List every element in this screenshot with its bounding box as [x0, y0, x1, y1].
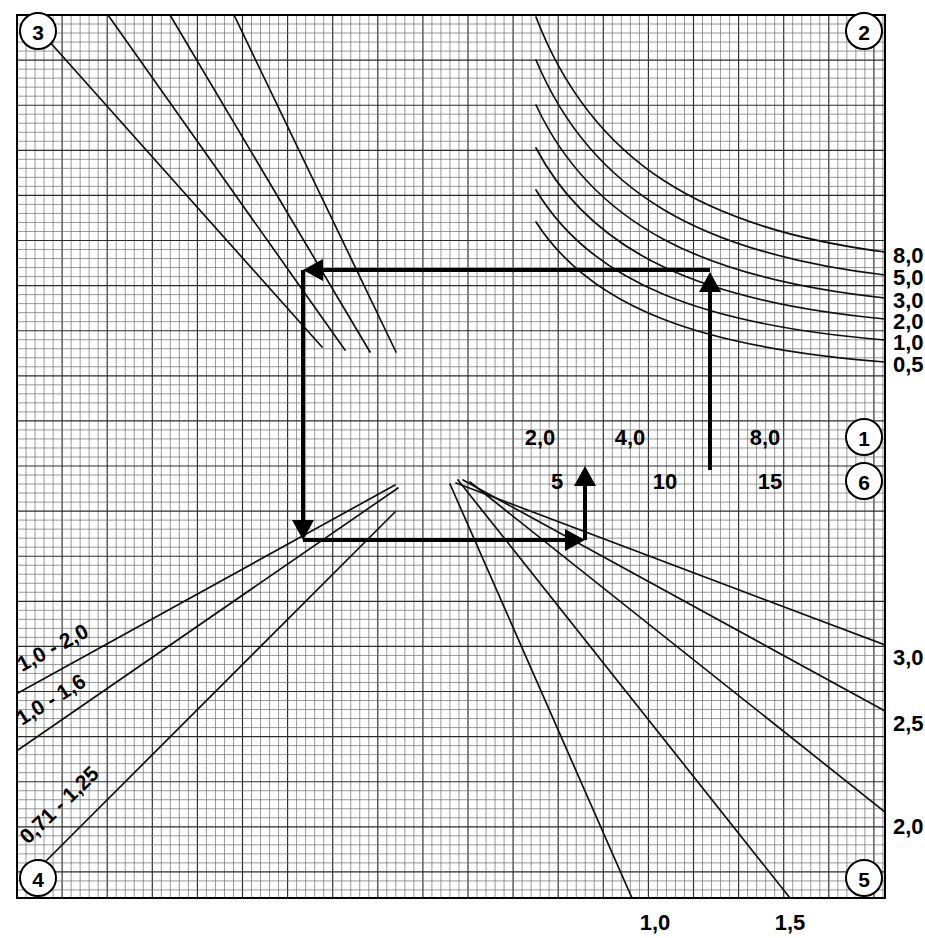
badge-5: 5 [846, 860, 882, 896]
badge-5-label: 5 [858, 868, 870, 891]
badge-3-label: 3 [32, 21, 44, 44]
badge-1-label: 1 [858, 427, 870, 450]
tick-label-1: 8,0 [750, 425, 781, 450]
tick-label-2: 0,5 [893, 352, 924, 377]
badge-2: 2 [846, 13, 882, 49]
tick-label-5: 1,5 [775, 910, 806, 935]
tick-label-5: 2,0 [893, 814, 924, 839]
badge-2-label: 2 [858, 21, 870, 44]
tick-label-1: 4,0 [615, 425, 646, 450]
tick-label-2: 5,0 [893, 265, 924, 290]
badge-6-label: 6 [858, 471, 870, 494]
nomogram-svg: 2,04,08,0510158,05,03,02,01,00,53,02,52,… [0, 0, 925, 938]
badge-4-label: 4 [32, 868, 44, 891]
badge-4: 4 [20, 860, 56, 896]
tick-label-6: 10 [653, 469, 677, 494]
tick-label-5: 1,0 [640, 910, 671, 935]
nomogram-chart: 2,04,08,0510158,05,03,02,01,00,53,02,52,… [0, 0, 925, 938]
tick-label-1: 2,0 [525, 425, 556, 450]
badge-3: 3 [20, 13, 56, 49]
tick-label-5: 2,5 [893, 711, 924, 736]
badge-1: 1 [846, 419, 882, 455]
tick-label-6: 15 [758, 469, 782, 494]
tick-label-6: 5 [551, 469, 563, 494]
badge-6: 6 [846, 463, 882, 499]
tick-label-5: 3,0 [893, 645, 924, 670]
